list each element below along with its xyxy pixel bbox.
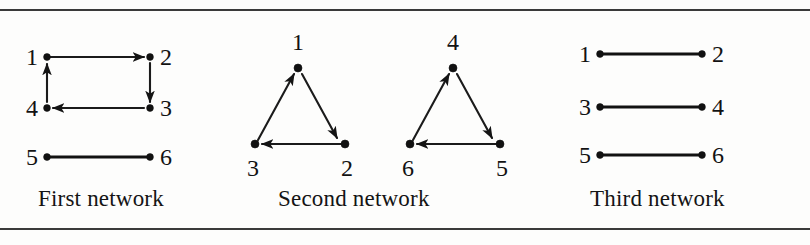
first-network-diagram: 1 2 3 4 5 6 [0, 12, 230, 184]
node-6-dot [406, 140, 414, 148]
panel-third-network: 1 2 3 4 5 6 Third network [560, 12, 810, 226]
node-label-3: 3 [160, 95, 172, 121]
second-network-diagram: 1 2 3 4 5 6 [230, 12, 560, 184]
node-label-6: 6 [712, 142, 724, 168]
node-6-dot [699, 152, 706, 159]
caption-second-network: Second network [230, 184, 608, 214]
second-network-svg: 1 2 3 4 5 6 [230, 12, 560, 184]
node-label-4: 4 [447, 29, 459, 55]
edge-6-to-4 [413, 74, 449, 140]
node-6-dot [147, 154, 154, 161]
node-5-dot [44, 154, 51, 161]
node-2-dot [341, 140, 349, 148]
panel-second-network: 1 2 3 4 5 6 Second network [230, 12, 560, 226]
node-4-dot [449, 64, 457, 72]
node-label-5: 5 [579, 142, 591, 168]
caption-third-network: Third network [560, 184, 810, 214]
node-label-4: 4 [712, 94, 724, 120]
node-4-dot [699, 104, 706, 111]
node-3-dot [597, 104, 604, 111]
caption-first-network: First network [0, 184, 268, 214]
node-5-dot [496, 140, 504, 148]
node-label-5: 5 [496, 155, 508, 181]
node-1-dot [597, 51, 604, 58]
figure-root: 1 2 3 4 5 6 First network [0, 0, 810, 245]
panel-first-network: 1 2 3 4 5 6 First network [0, 12, 230, 226]
node-label-1: 1 [292, 29, 304, 55]
node-label-3: 3 [579, 94, 591, 120]
node-label-5: 5 [26, 144, 38, 170]
network-panels: 1 2 3 4 5 6 First network [0, 12, 810, 226]
third-network-svg: 1 2 3 4 5 6 [560, 12, 810, 184]
node-1-dot [294, 64, 302, 72]
edge-1-to-2 [302, 74, 337, 138]
top-rule [0, 9, 810, 11]
node-4-dot [44, 105, 51, 112]
bottom-rule [0, 228, 810, 230]
node-label-6: 6 [160, 144, 172, 170]
node-3-dot [147, 105, 154, 112]
node-2-dot [699, 51, 706, 58]
edge-3-to-1 [258, 74, 294, 140]
node-3-dot [251, 140, 259, 148]
node-label-4: 4 [26, 95, 38, 121]
first-network-svg: 1 2 3 4 5 6 [0, 12, 230, 184]
node-label-3: 3 [247, 155, 259, 181]
node-label-6: 6 [402, 155, 414, 181]
node-label-2: 2 [160, 44, 172, 70]
edge-4-to-5 [457, 74, 492, 138]
node-label-2: 2 [341, 155, 353, 181]
node-label-1: 1 [579, 41, 591, 67]
third-network-diagram: 1 2 3 4 5 6 [560, 12, 810, 184]
node-5-dot [597, 152, 604, 159]
node-2-dot [147, 54, 154, 61]
node-label-2: 2 [712, 41, 724, 67]
node-1-dot [44, 54, 51, 61]
node-label-1: 1 [26, 44, 38, 70]
